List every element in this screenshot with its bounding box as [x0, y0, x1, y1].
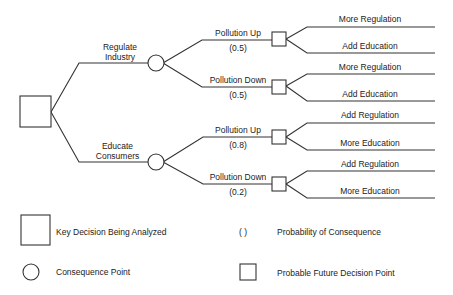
option-label-line: Regulate: [95, 42, 145, 52]
action-label: More Regulation: [330, 62, 410, 72]
future-decision-square-2: [272, 80, 286, 94]
action-label: More Education: [330, 186, 410, 196]
legend-consequence-icon: [23, 264, 39, 280]
outcome-label: Pollution Up: [206, 125, 270, 135]
future-decision-square-1: [272, 32, 286, 46]
outcome-probability: (0.8): [206, 140, 270, 150]
future-decision-square-3: [272, 130, 286, 144]
action-label: Add Regulation: [330, 110, 410, 120]
option-label-educate: Educate Consumers: [90, 141, 145, 161]
option-label-regulate: Regulate Industry: [95, 42, 145, 62]
outcome-probability: (0.5): [206, 43, 270, 53]
legend-future-decision-icon: [240, 264, 256, 280]
legend-key-decision-icon: [21, 215, 50, 245]
outcome-probability: (0.2): [206, 187, 270, 197]
option-label-line: Consumers: [90, 151, 145, 161]
action-label: More Education: [330, 138, 410, 148]
legend-key-decision-label: Key Decision Being Analyzed: [56, 227, 167, 237]
action-label: Add Education: [330, 89, 410, 99]
option-label-line: Educate: [90, 141, 145, 151]
legend-probability-symbol: ( ): [239, 227, 247, 237]
outcome-label: Pollution Up: [206, 28, 270, 38]
legend-future-decision-label: Probable Future Decision Point: [277, 268, 395, 278]
consequence-circle-regulate: [148, 55, 164, 71]
key-decision-square: [20, 96, 51, 127]
legend-consequence-label: Consequence Point: [56, 267, 130, 277]
future-decision-square-4: [272, 177, 286, 191]
outcome-label: Pollution Down: [203, 172, 273, 182]
action-label: More Regulation: [330, 14, 410, 24]
consequence-circle-educate: [148, 154, 164, 170]
outcome-probability: (0.5): [206, 90, 270, 100]
outcome-label: Pollution Down: [203, 75, 273, 85]
legend-probability-label: Probability of Consequence: [277, 227, 381, 237]
action-label: Add Regulation: [330, 159, 410, 169]
option-label-line: Industry: [95, 52, 145, 62]
action-label: Add Education: [330, 41, 410, 51]
